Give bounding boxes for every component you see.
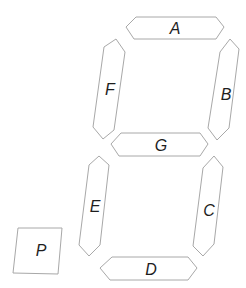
- segment-p-label: P: [36, 242, 47, 259]
- segment-b: B: [208, 39, 239, 140]
- segment-d: D: [100, 257, 197, 280]
- segment-c: C: [193, 156, 223, 256]
- segment-a-label: A: [169, 20, 181, 37]
- segment-a: A: [126, 17, 224, 39]
- segment-p-decimal-point: P: [13, 228, 62, 274]
- segment-c-label: C: [203, 202, 215, 219]
- segment-e: E: [79, 156, 109, 256]
- segment-f: F: [93, 39, 125, 139]
- segment-e-label: E: [90, 198, 101, 215]
- segment-f-label: F: [105, 81, 116, 98]
- segment-d-label: D: [145, 261, 157, 278]
- segment-g-label: G: [155, 137, 167, 154]
- segment-b-label: B: [221, 86, 232, 103]
- segment-g: G: [111, 133, 208, 156]
- seven-segment-diagram: A B C D E F G P: [0, 0, 246, 288]
